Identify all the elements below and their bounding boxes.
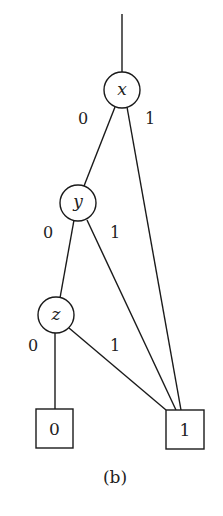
node-y-label: y: [72, 191, 83, 211]
edge-x-to-y: [84, 107, 115, 186]
edge-label-x-high: 1: [145, 109, 155, 128]
figure-caption: (b): [103, 467, 127, 487]
bdd-diagram: x y z 0 1 0 1 0 1 0 1 (b): [0, 0, 223, 516]
edge-label-z-high: 1: [110, 336, 120, 355]
node-x-label: x: [117, 79, 127, 99]
terminal-1: 1: [166, 410, 204, 449]
node-z-label: z: [51, 304, 62, 324]
terminal-1-label: 1: [180, 420, 191, 440]
edge-label-x-low: 0: [78, 109, 88, 128]
terminal-0: 0: [36, 409, 73, 448]
edge-y-to-z: [60, 220, 74, 298]
terminal-0-label: 0: [49, 419, 60, 439]
edge-label-y-high: 1: [110, 223, 120, 242]
edge-label-y-low: 0: [43, 223, 53, 242]
node-y: y: [60, 185, 96, 221]
node-z: z: [38, 297, 74, 333]
edge-label-z-low: 0: [28, 336, 38, 355]
node-x: x: [104, 72, 140, 108]
